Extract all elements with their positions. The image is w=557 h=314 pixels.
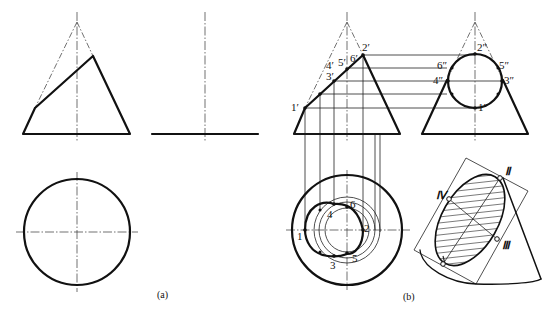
drawing-canvas: (a) <box>0 0 557 314</box>
b-front-view: 1′ 2′ 3′ 4′ 5′ 6′ <box>291 12 400 142</box>
label-6-top: 6 <box>350 198 356 210</box>
point-II <box>498 176 503 181</box>
point-1-top <box>303 228 307 232</box>
point-mid-upper-top <box>319 209 322 212</box>
point-6-side <box>451 67 454 70</box>
point-mid-left-side <box>451 93 454 96</box>
point-3-top <box>332 254 336 258</box>
a-cone-removed-right <box>77 22 93 56</box>
label-6-side: 6″ <box>437 59 447 71</box>
point-1-side <box>473 106 477 110</box>
label-3-front: 3′ <box>326 70 334 82</box>
a-truncated-cone-outline <box>23 56 130 134</box>
point-mid-front <box>318 92 322 96</box>
caption-b: (b) <box>403 291 415 303</box>
a-side-view <box>152 12 258 142</box>
point-2-front <box>361 53 365 57</box>
label-4-side: 4″ <box>433 74 443 86</box>
label-5-side: 5″ <box>499 59 509 71</box>
point-IV <box>447 197 452 202</box>
point-mid-right-side <box>497 93 500 96</box>
label-2-top: 2 <box>364 222 370 234</box>
b-side-removed-left <box>447 22 475 80</box>
ellipse-major-axis <box>443 178 500 264</box>
label-3-side: 3″ <box>504 74 514 86</box>
label-4-front: 4′ <box>326 59 334 71</box>
point-mid-lower-top <box>319 251 322 254</box>
label-III: Ⅲ <box>502 239 511 251</box>
label-6-front: 6′ <box>350 52 358 64</box>
label-1-front: 1′ <box>291 101 299 113</box>
label-3-top: 3 <box>330 259 336 271</box>
point-I <box>441 262 446 267</box>
b-pictorial-view: Ⅱ Ⅲ Ⅳ <box>414 158 541 284</box>
label-2-side: 2″ <box>477 41 487 53</box>
figure-b: 1′ 2′ 3′ 4′ 5′ 6′ 1″ 2″ 3″ 4″ 5″ <box>286 12 541 303</box>
b-cone-removed-right <box>347 22 363 55</box>
cone-right-generator <box>503 178 541 279</box>
a-front-view <box>23 12 130 142</box>
point-5-top <box>345 251 349 255</box>
point-4-top <box>332 202 336 206</box>
label-5-front: 5′ <box>338 56 346 68</box>
b-side-view: 1″ 2″ 3″ 4″ 5″ 6″ <box>422 12 528 142</box>
point-6-top <box>345 205 349 209</box>
label-II: Ⅱ <box>505 165 512 177</box>
point-1-front <box>303 106 307 110</box>
label-4-top: 4 <box>327 208 333 220</box>
point-4-side <box>446 79 450 83</box>
figure-a: (a) <box>16 12 258 301</box>
caption-a: (a) <box>157 289 168 301</box>
a-top-view <box>16 172 138 292</box>
a-cone-removed-left <box>35 22 77 108</box>
label-1-top: 1 <box>297 230 303 242</box>
point-III <box>495 237 500 242</box>
label-1-side: 1″ <box>478 101 488 113</box>
label-2-front: 2′ <box>362 41 370 53</box>
cutting-plane-rect <box>414 158 528 284</box>
label-5-top: 5 <box>352 252 358 264</box>
